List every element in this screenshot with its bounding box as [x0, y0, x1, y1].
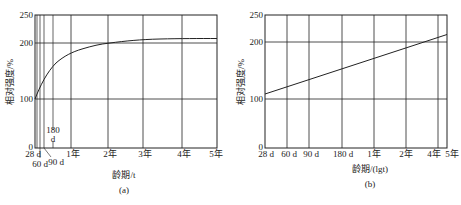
xtick-60d-b: 60 d [281, 149, 297, 159]
caption-a: (a) [119, 185, 129, 195]
strength-line-b [265, 35, 447, 95]
ytick-250-b: 250 [250, 10, 264, 20]
caption-b: (b) [365, 179, 376, 189]
xtick-4y-b: 4年 [427, 148, 441, 159]
plot-frame-b [265, 15, 447, 148]
plot-frame-a [35, 15, 217, 148]
ylabel-a: 相对强度/% [4, 58, 15, 105]
ylabel-b: 相对强度/% [235, 58, 246, 105]
chart-a: 250 200 100 0 180 d 28 d 60 d 90 d 1年 2年… [4, 10, 223, 195]
xtick-28d-a: 28 d [25, 149, 41, 159]
ytick-200-a: 200 [20, 38, 34, 48]
xtick-5y-b: 5年 [445, 148, 459, 159]
xtick-180d-b: 180 d [333, 149, 354, 159]
xtick-60d-a: 60 d [32, 159, 48, 169]
xtick-3y-a: 3年 [138, 148, 152, 159]
xtick-1y-a: 1年 [66, 148, 80, 159]
ytick-100-b: 100 [250, 94, 264, 104]
xtick-90d-a: 90 d [48, 157, 64, 167]
xlabel-a: 龄期/t [112, 169, 136, 180]
ytick-250-a: 250 [20, 10, 34, 20]
xtick-2y-a: 2年 [103, 148, 117, 159]
xtick-5y-a: 5年 [209, 148, 223, 159]
xtick-180-a-line2: d [51, 134, 56, 144]
chart-b: 250 200 100 0 28 d 60 d 90 d 180 d 1年 2年… [235, 10, 459, 189]
ytick-200-b: 200 [250, 37, 264, 47]
ytick-100-a: 100 [20, 94, 34, 104]
xtick-2y-b: 2年 [399, 148, 413, 159]
strength-curve-a [35, 39, 217, 100]
leader-90d [44, 148, 51, 157]
xtick-28d-b: 28 d [258, 149, 274, 159]
figure: 250 200 100 0 180 d 28 d 60 d 90 d 1年 2年… [0, 0, 461, 205]
xtick-4y-a: 4年 [177, 148, 191, 159]
xtick-1y-b: 1年 [367, 148, 381, 159]
xtick-90d-b: 90 d [303, 149, 319, 159]
xlabel-b: 龄期/(lgt) [352, 163, 388, 174]
